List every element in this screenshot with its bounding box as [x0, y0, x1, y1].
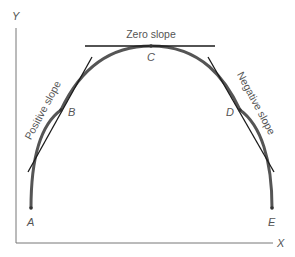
label-b: B	[68, 106, 75, 118]
point-e	[270, 206, 274, 210]
slope-diagram: Y X A B C D E Zero slope Positive slope …	[0, 0, 295, 257]
label-e: E	[268, 216, 276, 228]
label-d: D	[226, 106, 234, 118]
curve	[31, 46, 272, 208]
point-d	[238, 108, 242, 112]
point-a	[29, 206, 33, 210]
y-axis-label: Y	[12, 10, 20, 22]
point-b	[59, 108, 63, 112]
label-a: A	[26, 216, 34, 228]
zero-slope-label: Zero slope	[126, 28, 176, 40]
point-c	[149, 44, 153, 48]
x-axis-label: X	[276, 237, 285, 249]
label-c: C	[147, 51, 155, 63]
